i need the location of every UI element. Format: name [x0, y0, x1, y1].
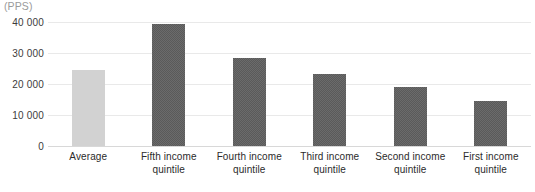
x-axis-category-label-line: quintile — [290, 163, 371, 176]
bar — [152, 24, 185, 146]
x-axis-category-label-line: First income — [451, 150, 532, 163]
y-axis-tick-label: 20 000 — [0, 79, 44, 90]
bar — [313, 74, 346, 146]
x-axis-category-label: Fifth incomequintile — [129, 150, 210, 176]
bars-layer — [48, 22, 531, 146]
y-axis-tick-label: 40 000 — [0, 17, 44, 28]
x-axis-category-label: Average — [48, 150, 129, 163]
bar — [474, 101, 507, 146]
axis-baseline — [48, 146, 531, 147]
x-axis-category-label: Third incomequintile — [290, 150, 371, 176]
x-axis-category-label-line: Second income — [370, 150, 451, 163]
x-axis-category-label-line: quintile — [129, 163, 210, 176]
y-axis-tick-label: 30 000 — [0, 48, 44, 59]
bar-chart: (PPS) 010 00020 00030 00040 000 AverageF… — [0, 0, 535, 192]
x-axis-category-label-line: Fifth income — [129, 150, 210, 163]
y-axis-tick-label: 10 000 — [0, 110, 44, 121]
x-axis-category-label-line: Fourth income — [209, 150, 290, 163]
x-axis-category-label-line: quintile — [209, 163, 290, 176]
x-axis-category-label-line: Average — [48, 150, 129, 163]
x-axis-category-label: Second incomequintile — [370, 150, 451, 176]
x-axis-category-label: Fourth incomequintile — [209, 150, 290, 176]
x-axis-category-label-line: quintile — [370, 163, 451, 176]
bar — [233, 58, 266, 146]
bar — [72, 70, 105, 146]
x-axis-category-label-line: quintile — [451, 163, 532, 176]
x-axis-category-label: First incomequintile — [451, 150, 532, 176]
x-axis-category-labels: AverageFifth incomequintileFourth income… — [48, 150, 531, 190]
y-axis-tick-label: 0 — [0, 141, 44, 152]
y-axis-tick-labels: 010 00020 00030 00040 000 — [0, 22, 44, 146]
bar — [394, 87, 427, 146]
x-axis-category-label-line: Third income — [290, 150, 371, 163]
unit-label: (PPS) — [4, 0, 33, 12]
